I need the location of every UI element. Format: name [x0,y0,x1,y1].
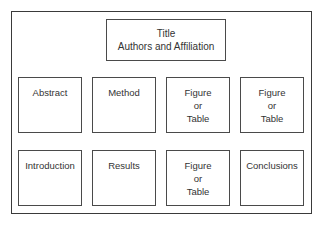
abstract-box: Abstract [18,77,82,133]
results-box: Results [92,150,156,206]
figure-table-box-2: Figure or Table [240,77,304,133]
abstract-label: Abstract [19,86,81,99]
or-label: or [167,172,229,185]
table-label: Table [167,112,229,125]
figure-label: Figure [241,86,303,99]
introduction-box: Introduction [18,150,82,206]
title-label: Title [107,27,225,40]
figure-table-box-1: Figure or Table [166,77,230,133]
results-label: Results [93,159,155,172]
title-authors-box: Title Authors and Affiliation [106,19,226,61]
figure-label: Figure [167,159,229,172]
method-label: Method [93,86,155,99]
or-label: or [167,99,229,112]
conclusions-box: Conclusions [240,150,304,206]
table-label: Table [167,185,229,198]
or-label: or [241,99,303,112]
authors-affiliation-label: Authors and Affiliation [107,40,225,53]
conclusions-label: Conclusions [241,159,303,172]
figure-label: Figure [167,86,229,99]
method-box: Method [92,77,156,133]
introduction-label: Introduction [19,159,81,172]
figure-table-box-3: Figure or Table [166,150,230,206]
table-label: Table [241,112,303,125]
